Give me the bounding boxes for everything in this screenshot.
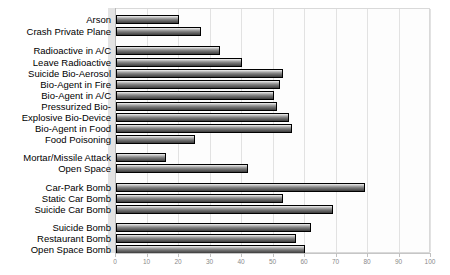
tick-mark bbox=[147, 253, 148, 257]
bar[interactable] bbox=[116, 27, 201, 36]
bar-row: Radioactive in A/C bbox=[0, 45, 450, 57]
tick-mark bbox=[399, 253, 400, 257]
bar[interactable] bbox=[116, 124, 292, 133]
bar[interactable] bbox=[116, 58, 242, 67]
bar[interactable] bbox=[116, 205, 333, 214]
x-tick-label: 10 bbox=[143, 258, 150, 265]
bar-row: Crash Private Plane bbox=[0, 26, 450, 38]
category-label: Crash Private Plane bbox=[27, 26, 111, 38]
tick-mark bbox=[273, 253, 274, 257]
bar[interactable] bbox=[116, 102, 277, 111]
x-tick-label: 30 bbox=[206, 258, 213, 265]
tick-mark bbox=[430, 253, 431, 257]
bar-row: Open Space bbox=[0, 163, 450, 175]
bar-row: Suicide Car Bomb bbox=[0, 204, 450, 216]
x-tick-label: 70 bbox=[332, 258, 339, 265]
x-tick-label: 0 bbox=[113, 258, 117, 265]
x-tick-label: 50 bbox=[269, 258, 276, 265]
x-tick-label: 40 bbox=[237, 258, 244, 265]
x-tick-label: 60 bbox=[300, 258, 307, 265]
bar-row: Arson bbox=[0, 14, 450, 26]
bar-row: Food Poisoning bbox=[0, 134, 450, 146]
x-tick-label: 80 bbox=[363, 258, 370, 265]
bar[interactable] bbox=[116, 223, 311, 232]
bar[interactable] bbox=[116, 46, 220, 55]
bar[interactable] bbox=[116, 153, 166, 162]
tick-mark bbox=[304, 253, 305, 257]
category-label: Open Space bbox=[58, 163, 111, 175]
x-tick-label: 90 bbox=[395, 258, 402, 265]
bar[interactable] bbox=[116, 194, 283, 203]
category-label: Suicide Car Bomb bbox=[34, 204, 111, 216]
category-label: Arson bbox=[86, 14, 111, 26]
tick-mark bbox=[210, 253, 211, 257]
bar[interactable] bbox=[116, 164, 248, 173]
bar[interactable] bbox=[116, 15, 179, 24]
x-tick-label: 20 bbox=[174, 258, 181, 265]
bar[interactable] bbox=[116, 234, 296, 243]
category-label: Food Poisoning bbox=[45, 134, 111, 146]
bar[interactable] bbox=[116, 80, 280, 89]
category-label: Open Space Bomb bbox=[31, 244, 111, 256]
bar[interactable] bbox=[116, 183, 365, 192]
bar[interactable] bbox=[116, 135, 195, 144]
bar[interactable] bbox=[116, 69, 283, 78]
tick-mark bbox=[178, 253, 179, 257]
tick-mark bbox=[336, 253, 337, 257]
bar[interactable] bbox=[116, 113, 289, 122]
tick-mark bbox=[367, 253, 368, 257]
tick-mark bbox=[241, 253, 242, 257]
tick-mark bbox=[115, 253, 116, 257]
bar[interactable] bbox=[116, 91, 274, 100]
x-tick-label: 100 bbox=[425, 258, 436, 265]
category-label: Radioactive in A/C bbox=[33, 45, 111, 57]
bar-chart: ArsonCrash Private PlaneRadioactive in A… bbox=[0, 0, 450, 275]
bar-row: Open Space Bomb bbox=[0, 244, 450, 256]
